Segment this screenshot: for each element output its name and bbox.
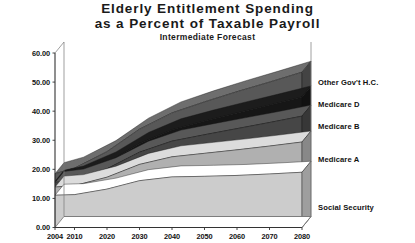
- legend-label-other-gov-t-h-c: Other Gov't H.C.: [318, 78, 378, 87]
- y-axis-tick-label: 30.00: [16, 136, 50, 145]
- x-axis-tick-label: 2010: [58, 232, 92, 241]
- y-axis-tick-label: 50.00: [16, 78, 50, 87]
- x-axis-tick-label: 2060: [220, 232, 254, 241]
- chart-container: Elderly Entitlement Spending as a Percen…: [0, 0, 415, 243]
- x-axis-tick-label: 2020: [90, 232, 124, 241]
- legend-label-medicare-d: Medicare D: [318, 100, 360, 109]
- stacked-area-bands: [55, 42, 311, 228]
- y-axis-tick-label: 60.00: [16, 49, 50, 58]
- x-axis-tick-label: 2040: [155, 232, 189, 241]
- x-axis-tick-label: 2080: [285, 232, 319, 241]
- y-axis-tick-label: 20.00: [16, 165, 50, 174]
- legend-label-social-security: Social Security: [318, 203, 374, 212]
- legend-label-medicare-a: Medicare A: [318, 155, 359, 164]
- x-axis-tick-label: 2050: [188, 232, 222, 241]
- y-axis-tick-label: 40.00: [16, 107, 50, 116]
- y-axis-tick-label: 10.00: [16, 194, 50, 203]
- x-axis-tick-label: 2070: [253, 232, 287, 241]
- legend-label-medicare-b: Medicare B: [318, 122, 360, 131]
- x-axis-tick-label: 2030: [123, 232, 157, 241]
